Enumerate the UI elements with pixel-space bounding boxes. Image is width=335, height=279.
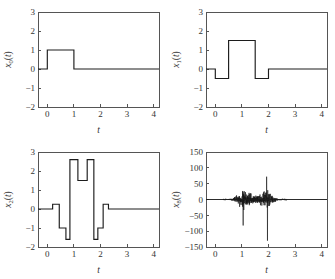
- x-axis-title: t: [265, 125, 268, 135]
- y-tick-label: 0: [31, 204, 36, 214]
- x-tick-label: 2: [98, 249, 103, 259]
- x-tick-label: 3: [293, 109, 298, 119]
- x-tick-label: 4: [319, 249, 324, 259]
- y-tick-label: 3: [31, 7, 36, 17]
- y-tick-label: 150: [190, 147, 204, 157]
- x-tick-label: 4: [151, 109, 156, 119]
- x-tick-label: 0: [213, 249, 218, 259]
- y-tick-label: −100: [184, 226, 203, 236]
- y-axis-title: x0(t): [3, 51, 14, 68]
- chart-panel-2: 01234−2−10123tx2(t): [0, 140, 167, 279]
- x-tick-label: 4: [151, 249, 156, 259]
- four-panel-signal-figure: 01234−2−10123tx0(t) 01234−2−10123tx1(t) …: [0, 0, 335, 279]
- x-axis-title: t: [265, 265, 268, 275]
- y-tick-label: 2: [199, 26, 204, 36]
- x-tick-label: 2: [98, 109, 103, 119]
- axes-frame: [38, 12, 159, 107]
- x-tick-label: 1: [240, 249, 245, 259]
- plot-panel-x0: 01234−2−10123tx0(t): [0, 0, 167, 139]
- y-tick-label: 2: [31, 26, 36, 36]
- x-tick-label: 0: [45, 109, 50, 119]
- y-tick-label: 1: [199, 45, 204, 55]
- y-tick-label: 2: [31, 166, 36, 176]
- y-axis-title: x8(t): [171, 191, 182, 208]
- y-tick-label: −1: [25, 223, 35, 233]
- y-axis-title: x2(t): [3, 191, 14, 208]
- y-tick-label: 50: [194, 179, 204, 189]
- y-tick-label: −150: [184, 242, 203, 252]
- plot-panel-x8: 01234−150−100−50050100150tx8(t): [168, 140, 335, 279]
- y-tick-label: −1: [25, 83, 35, 93]
- y-axis-title: x1(t): [171, 51, 182, 68]
- x-tick-label: 0: [213, 109, 218, 119]
- y-tick-label: −1: [193, 83, 203, 93]
- x-tick-label: 0: [45, 249, 50, 259]
- signal-trace: [206, 41, 327, 79]
- x-tick-label: 2: [266, 109, 271, 119]
- x-tick-label: 4: [319, 109, 324, 119]
- plot-panel-x2: 01234−2−10123tx2(t): [0, 140, 167, 279]
- x-tick-label: 1: [72, 109, 77, 119]
- y-tick-label: 1: [31, 185, 36, 195]
- axes-frame: [38, 152, 159, 247]
- x-tick-label: 1: [240, 109, 245, 119]
- signal-trace: [206, 177, 327, 241]
- x-tick-label: 3: [125, 109, 130, 119]
- x-tick-label: 3: [293, 249, 298, 259]
- y-tick-label: 0: [31, 64, 36, 74]
- y-tick-label: −2: [25, 102, 35, 112]
- y-tick-label: −2: [193, 102, 203, 112]
- chart-panel-3: 01234−150−100−50050100150tx8(t): [168, 140, 335, 279]
- x-tick-label: 3: [125, 249, 130, 259]
- chart-panel-1: 01234−2−10123tx1(t): [168, 0, 335, 139]
- y-tick-label: 3: [31, 147, 36, 157]
- x-tick-label: 2: [266, 249, 271, 259]
- signal-trace: [38, 50, 159, 69]
- signal-trace: [38, 160, 159, 240]
- y-tick-label: 100: [190, 163, 204, 173]
- axes-frame: [206, 12, 327, 107]
- plot-panel-x1: 01234−2−10123tx1(t): [168, 0, 335, 139]
- x-axis-title: t: [97, 125, 100, 135]
- y-tick-label: 0: [199, 195, 204, 205]
- y-tick-label: −50: [189, 211, 204, 221]
- y-tick-label: 3: [199, 7, 204, 17]
- y-tick-label: 1: [31, 45, 36, 55]
- chart-panel-0: 01234−2−10123tx0(t): [0, 0, 167, 139]
- x-tick-label: 1: [72, 249, 77, 259]
- y-tick-label: 0: [199, 64, 204, 74]
- y-tick-label: −2: [25, 242, 35, 252]
- x-axis-title: t: [97, 265, 100, 275]
